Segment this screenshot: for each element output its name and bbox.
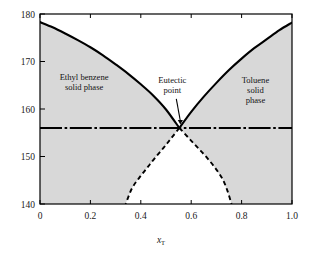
annotation-line: Toluene	[242, 75, 270, 85]
x-tick-label: 0.6	[185, 211, 197, 221]
x-tick-label: 0	[38, 211, 43, 221]
annotation-line: point	[163, 85, 181, 95]
x-tick-label: 0.4	[135, 211, 147, 221]
phase-diagram-figure: 00.20.40.60.81.0 140150160170180 xT Ethy…	[0, 0, 309, 255]
y-tick-label: 150	[21, 152, 36, 162]
annotation-line: Ethyl benzene	[60, 72, 109, 82]
y-tick-label: 140	[21, 200, 36, 210]
phase-diagram-svg: 00.20.40.60.81.0 140150160170180 xT Ethy…	[0, 0, 309, 255]
y-tick-label: 170	[21, 57, 36, 67]
annotation-line: solid	[247, 85, 264, 95]
x-tick-label: 0.2	[84, 211, 96, 221]
annotation-line: phase	[246, 95, 266, 105]
annotation-line: solid phase	[65, 82, 104, 92]
annotation-line: Eutectic	[158, 75, 186, 85]
y-tick-label: 180	[21, 10, 36, 20]
y-tick-label: 160	[21, 105, 36, 115]
annotation-left-region: Ethyl benzenesolid phase	[60, 72, 109, 92]
x-tick-label: 0.8	[236, 211, 248, 221]
x-tick-label: 1.0	[286, 211, 298, 221]
